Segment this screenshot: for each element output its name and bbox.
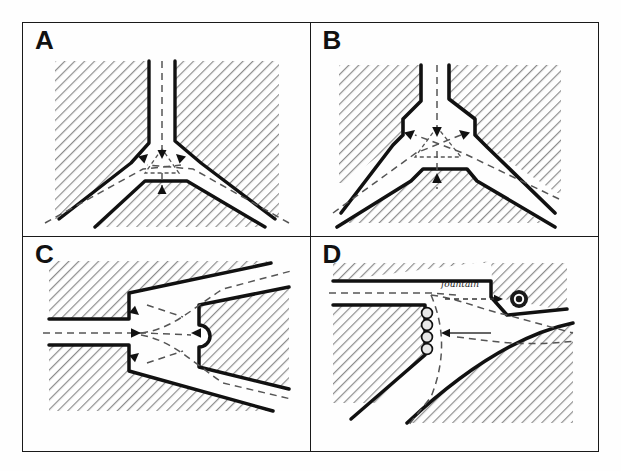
- figure-frame: A: [22, 22, 599, 452]
- panel-c-drawing: [23, 237, 311, 451]
- island-with-nose: [199, 287, 289, 389]
- panel-d-drawing: fountain: [311, 237, 599, 451]
- fountain-label: fountain: [440, 279, 479, 289]
- panel-a: A: [23, 23, 311, 237]
- figure-root: A: [0, 0, 621, 471]
- panel-letter-a: A: [35, 27, 54, 53]
- panel-d: D: [311, 237, 599, 451]
- panel-c: C: [23, 237, 311, 451]
- panel-letter-c: C: [35, 241, 54, 267]
- bollard-arrowhead: [441, 329, 450, 337]
- block-southwest-chamfered: [333, 305, 425, 419]
- bollard: [421, 344, 432, 355]
- panel-b: B: [311, 23, 599, 237]
- fountain-marker: [510, 290, 528, 308]
- panel-b-drawing: [311, 23, 599, 237]
- panel-letter-d: D: [323, 241, 342, 267]
- bollard: [421, 308, 432, 319]
- bollard: [421, 320, 432, 331]
- bollard: [421, 332, 432, 343]
- panel-a-drawing: [23, 23, 311, 237]
- panel-letter-b: B: [323, 27, 342, 53]
